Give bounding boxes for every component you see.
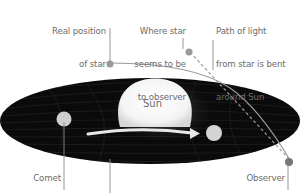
observer-label: Observer — [236, 173, 285, 184]
real-star-point — [107, 61, 114, 68]
sun-label: Sun — [143, 98, 162, 109]
comet-orbit-label: Comet's orbit is bent by Sun's gravity — [113, 172, 201, 195]
real-star-label: Real position of star — [40, 4, 106, 92]
comet-label: Comet — [22, 173, 61, 184]
real-star-label-line2: of star — [40, 59, 106, 70]
lensing-diagram: Real position of star Where star seems t… — [0, 0, 304, 195]
light-label-line2: from star is bent — [216, 59, 286, 70]
observer-point — [285, 158, 293, 166]
comet-end — [206, 125, 222, 141]
apparent-star-point — [186, 49, 193, 56]
orbit-label-line1: Comet's orbit is bent — [113, 194, 201, 195]
light-path-label: Path of light from star is bent around S… — [216, 4, 286, 125]
light-label-line1: Path of light — [216, 26, 286, 37]
apparent-label-line2: seems to be — [126, 59, 186, 70]
light-label-line3: around Sun — [216, 92, 286, 103]
real-star-label-line1: Real position — [40, 26, 106, 37]
apparent-label-line1: Where star — [126, 26, 186, 37]
